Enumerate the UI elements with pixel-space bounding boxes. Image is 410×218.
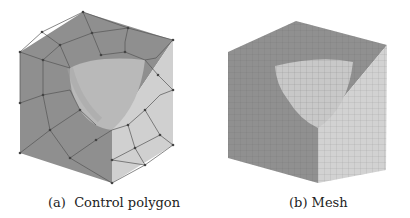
subfigure-control-polygon: (a) Control polygon [0,0,205,218]
caption-a-label: (a) [48,195,66,210]
caption-a-text: Control polygon [74,195,180,210]
mesh-illustration [205,0,410,190]
caption-b-label: (b) [289,195,307,210]
control-polygon-illustration [0,0,205,190]
caption-b: (b) Mesh [289,195,348,210]
caption-b-text: Mesh [312,195,348,210]
subfigure-mesh: (b) Mesh [205,0,410,218]
caption-a: (a) Control polygon [48,195,180,210]
